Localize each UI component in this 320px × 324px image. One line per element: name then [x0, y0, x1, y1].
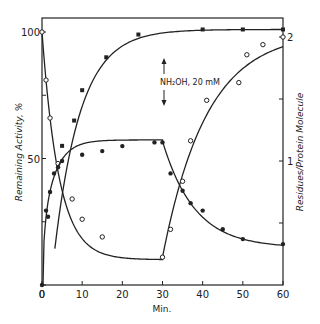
- data-point: [44, 208, 48, 212]
- data-point: [281, 242, 285, 246]
- data-point: [80, 88, 84, 92]
- x-axis: 0102030405060: [39, 281, 290, 300]
- data-point: [48, 190, 52, 194]
- y-right-tick-label: 2: [287, 32, 293, 43]
- data-point: [152, 140, 156, 144]
- data-point: [60, 159, 64, 163]
- data-point: [237, 80, 241, 84]
- plot-frame: [42, 18, 283, 285]
- x-tick-label: 20: [116, 289, 129, 300]
- x-tick-label: 30: [156, 289, 169, 300]
- data-point: [160, 255, 164, 259]
- data-point: [168, 171, 172, 175]
- data-point: [80, 217, 84, 221]
- data-point: [104, 55, 108, 59]
- data-point: [204, 98, 208, 102]
- data-point: [44, 78, 48, 82]
- data-point: [40, 283, 44, 287]
- data-point: [180, 179, 184, 183]
- x-tick-label: 10: [76, 289, 89, 300]
- series-curve: [55, 30, 282, 249]
- data-point: [281, 27, 285, 31]
- y-axis-right-label: Residues/Protein Molecule: [295, 92, 305, 211]
- data-point: [245, 53, 249, 57]
- data-point: [221, 227, 225, 231]
- data-point: [188, 201, 192, 205]
- y-tick-label: 50: [27, 154, 40, 165]
- data-point: [281, 35, 285, 39]
- data-point: [120, 144, 124, 148]
- data-point: [100, 149, 104, 153]
- y-tick-label: 0: [39, 289, 45, 300]
- data-point: [40, 30, 44, 34]
- data-series: [40, 27, 285, 287]
- x-axis-label: Min.: [153, 304, 172, 314]
- data-point: [188, 139, 192, 143]
- x-tick-label: 50: [236, 289, 249, 300]
- data-point: [70, 197, 74, 201]
- y-axis-label: Remaining Activity, %: [14, 103, 24, 201]
- x-tick-label: 60: [277, 289, 290, 300]
- series-curve: [42, 140, 283, 285]
- data-point: [241, 27, 245, 31]
- data-point: [261, 42, 265, 46]
- data-point: [52, 171, 56, 175]
- y-right-tick-label: 1: [287, 156, 293, 167]
- data-point: [136, 33, 140, 37]
- data-point: [46, 215, 50, 219]
- data-point: [201, 27, 205, 31]
- data-point: [60, 144, 64, 148]
- x-tick-label: 40: [196, 289, 209, 300]
- data-point: [100, 235, 104, 239]
- annotation-label: NH₂OH, 20 mM: [160, 78, 220, 87]
- data-point: [168, 227, 172, 231]
- data-point: [200, 208, 204, 212]
- data-point: [72, 119, 76, 123]
- data-point: [160, 140, 164, 144]
- data-point: [48, 116, 52, 120]
- data-point: [80, 153, 84, 157]
- chart: 0102030405060 050100 12 Min. Remaining A…: [0, 0, 320, 324]
- data-point: [241, 237, 245, 241]
- data-point: [180, 189, 184, 193]
- annotation-nh2oh: NH₂OH, 20 mM: [160, 58, 220, 106]
- y-tick-label: 100: [21, 27, 40, 38]
- data-point: [56, 165, 60, 169]
- y-axis-right: 12: [279, 32, 293, 223]
